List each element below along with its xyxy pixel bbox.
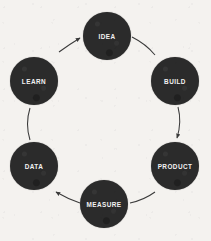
- node-idea[interactable]: IDEA: [83, 12, 131, 60]
- node-measure-label: MEASURE: [86, 201, 121, 208]
- node-learn-label: LEARN: [22, 78, 46, 85]
- connector-product-to-measure: [130, 192, 155, 203]
- node-data[interactable]: DATA: [10, 142, 58, 190]
- node-learn[interactable]: LEARN: [10, 57, 58, 105]
- cycle-diagram: IDEA BUILD PRODUCT MEASURE DATA LEARN: [0, 0, 211, 241]
- node-product[interactable]: PRODUCT: [151, 142, 199, 190]
- node-build-label: BUILD: [164, 78, 186, 85]
- connector-data-to-learn: [28, 108, 31, 140]
- connector-learn-to-idea: [59, 38, 80, 52]
- node-measure[interactable]: MEASURE: [80, 180, 128, 228]
- node-idea-label: IDEA: [98, 33, 115, 40]
- connector-measure-to-data: [56, 192, 80, 203]
- node-product-label: PRODUCT: [158, 163, 193, 170]
- connector-idea-to-build: [132, 37, 155, 55]
- node-build[interactable]: BUILD: [151, 57, 199, 105]
- node-data-label: DATA: [25, 163, 44, 170]
- connector-build-to-product: [177, 107, 180, 138]
